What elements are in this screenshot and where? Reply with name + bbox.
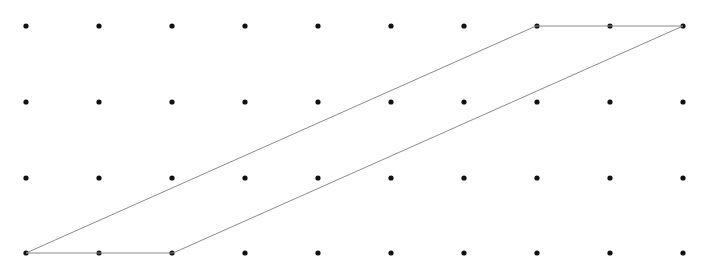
lattice-dot-r2-c7 — [534, 175, 539, 180]
lattice-dot-r2-c2 — [169, 175, 174, 180]
lattice-dot-r1-c0 — [23, 99, 28, 104]
lattice-dot-r1-c7 — [534, 99, 539, 104]
lattice-dot-r3-c6 — [461, 250, 466, 255]
lattice-dot-r3-c3 — [242, 250, 247, 255]
lattice-dot-r1-c1 — [96, 99, 101, 104]
lattice-dot-r3-c9 — [680, 250, 685, 255]
lattice-dot-r2-c3 — [242, 175, 247, 180]
lattice-dot-r2-c8 — [607, 175, 612, 180]
lattice-dot-r3-c8 — [607, 250, 612, 255]
lattice-dot-r0-c1 — [96, 23, 101, 28]
lattice-dot-r0-c0 — [23, 23, 28, 28]
lattice-dot-r2-c6 — [461, 175, 466, 180]
lattice-dot-r2-c9 — [680, 175, 685, 180]
lattice-dot-r1-c5 — [388, 99, 393, 104]
lattice-dot-r2-c0 — [23, 175, 28, 180]
lattice-dot-r0-c6 — [461, 23, 466, 28]
lattice-dot-r0-c5 — [388, 23, 393, 28]
lattice-dot-r1-c8 — [607, 99, 612, 104]
lattice-dot-r2-c5 — [388, 175, 393, 180]
geoboard-canvas — [0, 0, 712, 275]
lattice-dot-r1-c6 — [461, 99, 466, 104]
lattice-dot-r1-c3 — [242, 99, 247, 104]
geoboard-figure — [0, 0, 712, 275]
lattice-dot-r0-c4 — [315, 23, 320, 28]
lattice-dot-r0-c2 — [169, 23, 174, 28]
lattice-dot-r1-c4 — [315, 99, 320, 104]
lattice-dot-r1-c9 — [680, 99, 685, 104]
lattice-dot-r3-c4 — [315, 250, 320, 255]
lattice-dot-r2-c1 — [96, 175, 101, 180]
lattice-dot-r2-c4 — [315, 175, 320, 180]
lattice-dot-r1-c2 — [169, 99, 174, 104]
figure-background — [0, 0, 712, 275]
lattice-dot-r3-c5 — [388, 250, 393, 255]
lattice-dot-r0-c3 — [242, 23, 247, 28]
lattice-dot-r3-c7 — [534, 250, 539, 255]
